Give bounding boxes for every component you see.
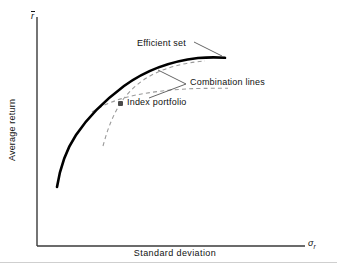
annotation-combination-lines: Combination lines: [190, 78, 265, 87]
x-axis-symbol-subscript: r: [313, 243, 315, 250]
combination-lines-leader-upper: [158, 70, 186, 84]
x-axis-title: Standard deviation: [134, 249, 216, 258]
y-axis-symbol-letter: r: [31, 12, 34, 21]
y-axis-title: Average return: [8, 99, 17, 161]
combination-lines-leader-lower: [149, 84, 186, 98]
x-axis-symbol: σr: [308, 239, 316, 250]
y-axis-symbol: r: [31, 12, 34, 21]
efficient-set-leader-line: [194, 42, 222, 56]
efficient-frontier-figure: r σr Average return Standard deviation E…: [0, 0, 337, 269]
annotation-index-portfolio: Index portfolio: [127, 98, 187, 107]
index-portfolio-marker: [118, 101, 123, 106]
combination-lines-leader-group: [149, 70, 186, 98]
annotation-efficient-set: Efficient set: [137, 39, 186, 48]
